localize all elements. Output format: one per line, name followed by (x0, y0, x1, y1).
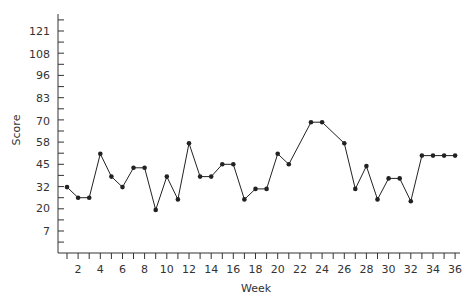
x-tick-label: 22 (293, 263, 307, 276)
y-tick-label: 121 (29, 25, 50, 38)
data-point (364, 164, 369, 169)
x-tick-label: 4 (97, 263, 104, 276)
series-line (67, 122, 455, 210)
x-tick-label: 28 (359, 263, 373, 276)
x-axis-title: Week (241, 282, 272, 295)
data-point (264, 187, 269, 192)
y-tick-label: 32 (36, 181, 50, 194)
line-chart: 720324558708396108121 246810121416182022… (0, 0, 471, 306)
y-tick-label: 20 (36, 202, 50, 215)
data-point (453, 153, 458, 158)
y-tick-label: 70 (36, 115, 50, 128)
y-axis: 720324558708396108121 (29, 14, 64, 253)
data-point (109, 174, 114, 179)
data-point (120, 185, 125, 190)
data-point (287, 162, 292, 167)
data-point (275, 152, 280, 157)
data-point (342, 141, 347, 146)
data-point (375, 197, 380, 202)
y-tick-label: 83 (36, 92, 50, 105)
data-point (165, 174, 170, 179)
data-point (386, 176, 391, 181)
data-point (187, 141, 192, 146)
data-point (153, 208, 158, 213)
x-tick-label: 30 (382, 263, 396, 276)
y-tick-label: 108 (29, 48, 50, 61)
data-point (131, 166, 136, 171)
y-axis-title: Score (10, 114, 23, 145)
data-point (209, 174, 214, 179)
data-point (142, 166, 147, 171)
x-tick-label: 36 (448, 263, 462, 276)
data-point (220, 162, 225, 167)
x-axis: 24681012141618202224262830323436 (58, 253, 462, 276)
data-point (231, 162, 236, 167)
y-tick-label: 7 (43, 225, 50, 238)
data-point (320, 120, 325, 125)
x-tick-label: 12 (182, 263, 196, 276)
x-tick-label: 24 (315, 263, 329, 276)
data-point (98, 152, 103, 157)
x-tick-label: 14 (204, 263, 218, 276)
x-tick-label: 8 (141, 263, 148, 276)
data-point (76, 195, 81, 200)
y-tick-label: 45 (36, 158, 50, 171)
x-tick-label: 2 (75, 263, 82, 276)
x-tick-label: 16 (226, 263, 240, 276)
y-tick-label: 96 (36, 69, 50, 82)
x-tick-label: 34 (426, 263, 440, 276)
data-point (431, 153, 436, 158)
data-point (309, 120, 314, 125)
data-point (442, 153, 447, 158)
x-tick-label: 18 (249, 263, 263, 276)
data-series (65, 120, 458, 212)
y-tick-label: 58 (36, 136, 50, 149)
data-point (65, 185, 70, 190)
data-point (176, 197, 181, 202)
data-point (198, 174, 203, 179)
data-point (87, 195, 92, 200)
data-point (242, 197, 247, 202)
x-tick-label: 26 (337, 263, 351, 276)
data-point (353, 187, 358, 192)
data-point (409, 199, 414, 204)
data-point (397, 176, 402, 181)
x-tick-label: 6 (119, 263, 126, 276)
x-tick-label: 32 (404, 263, 418, 276)
x-tick-label: 10 (160, 263, 174, 276)
data-point (253, 187, 258, 192)
x-tick-label: 20 (271, 263, 285, 276)
data-point (420, 153, 425, 158)
